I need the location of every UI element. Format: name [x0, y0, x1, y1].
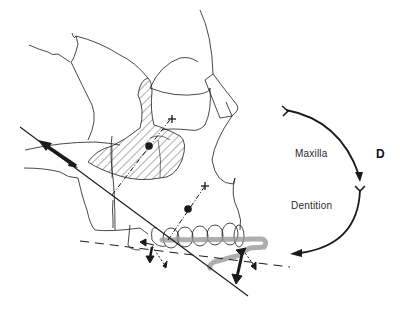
- cross-marker-icon: [201, 182, 209, 190]
- posterior-tooth-vectors: [140, 239, 167, 268]
- tail-fork-icon: [282, 106, 288, 116]
- cephalometric-diagram: [0, 0, 400, 313]
- centroid-dot-icon: [184, 205, 192, 213]
- arrowhead-down-icon: [355, 172, 363, 182]
- panel-label: D: [376, 147, 385, 161]
- tail-fork-icon: [355, 186, 365, 191]
- rotation-arc-maxilla: [286, 110, 359, 175]
- dentition-row: [152, 223, 244, 248]
- centroid-dot-icon: [145, 142, 153, 150]
- dentition-label: Dentition: [291, 200, 332, 211]
- maxilla-label: Maxilla: [295, 148, 328, 159]
- arrowhead-left-icon: [290, 249, 302, 257]
- skull-outline: [24, 10, 241, 250]
- cross-marker-icon: [168, 115, 176, 123]
- centroid-axis-lower: [168, 182, 209, 240]
